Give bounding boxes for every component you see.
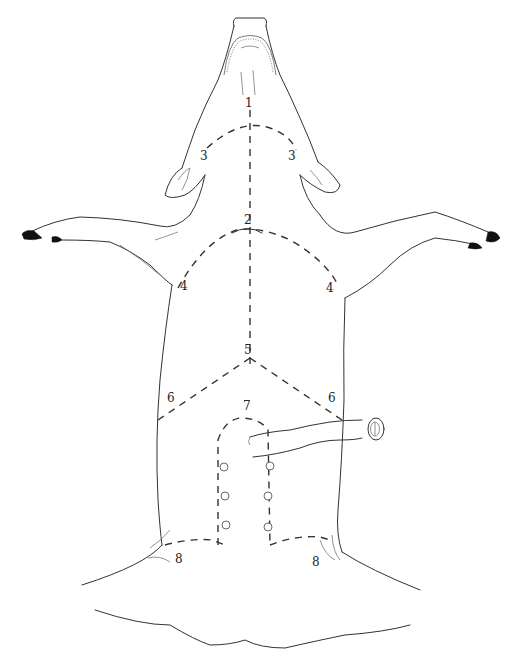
- label-6-right: 6: [328, 391, 336, 405]
- head: [182, 18, 318, 168]
- hoof-icon: [22, 230, 42, 239]
- umbilical-cord: [249, 418, 385, 457]
- right-foreleg: [320, 212, 500, 298]
- teeth-icon: [224, 36, 276, 76]
- label-5: 5: [244, 343, 252, 357]
- label-3-left: 3: [200, 149, 208, 163]
- label-4-left: 4: [180, 279, 188, 293]
- torso: [82, 285, 420, 648]
- teats: [220, 462, 274, 531]
- incision-labels: 1 3 3 2 4 4 5 6 6 7 8 8: [167, 96, 336, 569]
- incision-3-arc: [207, 126, 296, 151]
- label-4-right: 4: [326, 281, 334, 295]
- label-2: 2: [244, 213, 252, 227]
- incision-4-arc: [178, 229, 338, 288]
- label-8-left: 8: [175, 552, 183, 566]
- incision-8-left: [165, 540, 225, 545]
- ears: [165, 162, 340, 215]
- incision-6-left: [158, 358, 250, 420]
- label-7: 7: [243, 399, 251, 413]
- label-8-right: 8: [312, 555, 320, 569]
- pig-dissection-diagram: 1 3 3 2 4 4 5 6 6 7 8 8: [0, 0, 519, 665]
- label-3-right: 3: [288, 149, 296, 163]
- incision-6-right: [250, 358, 342, 420]
- left-foreleg: [22, 215, 190, 285]
- label-6-left: 6: [167, 391, 175, 405]
- label-1: 1: [245, 96, 253, 110]
